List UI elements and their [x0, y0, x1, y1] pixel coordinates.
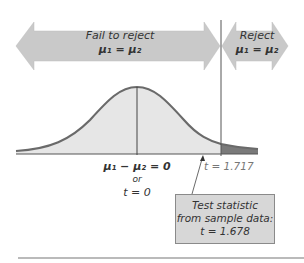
- fail-to-reject-text: Fail to reject: [70, 29, 170, 43]
- reject-text: Reject: [230, 29, 284, 43]
- acceptance-region: [16, 87, 221, 154]
- center-label-line1: μ₁ − μ₂ = 0: [92, 160, 182, 173]
- callout-line2: from sample data:: [176, 212, 274, 225]
- fail-to-reject-hypothesis: μ₁ = μ₂: [70, 43, 170, 57]
- center-label-t0: t = 0: [92, 186, 182, 199]
- center-label-or: or: [92, 173, 182, 186]
- critical-value-label: t = 1.717: [204, 160, 254, 172]
- center-label: μ₁ − μ₂ = 0 or t = 0: [92, 160, 182, 199]
- pointer-line: [192, 159, 202, 194]
- callout-line1: Test statistic: [176, 199, 274, 212]
- reject-hypothesis: μ₁ = μ₂: [230, 43, 284, 57]
- callout-line3: t = 1.678: [176, 225, 274, 238]
- fail-to-reject-label: Fail to reject μ₁ = μ₂: [70, 29, 170, 57]
- reject-label: Reject μ₁ = μ₂: [230, 29, 284, 57]
- test-statistic-callout: Test statistic from sample data: t = 1.6…: [175, 194, 275, 244]
